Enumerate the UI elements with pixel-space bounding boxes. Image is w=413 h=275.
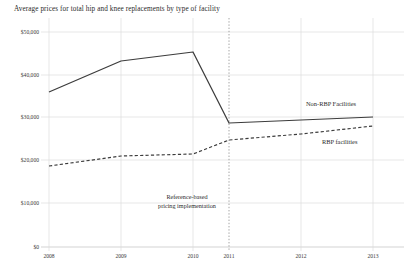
y-axis-tick-50000: $50,000: [5, 29, 39, 35]
y-axis-tick-0: $0: [5, 244, 39, 250]
series-label-rbp-facilities: RBP facilities: [322, 138, 357, 145]
x-axis-tick-2008: 2008: [29, 253, 69, 259]
x-axis-tick-2009: 2009: [101, 253, 141, 259]
x-axis-tick-2010: 2010: [173, 253, 213, 259]
series-line-non-rbp-facilities: [49, 52, 373, 123]
annotation-line-1: Reference-based: [146, 192, 228, 201]
series-label-non-rbp-facilities: Non-RBP Facilities: [306, 100, 356, 107]
y-axis-tick-20000: $20,000: [5, 157, 39, 163]
y-axis-tick-10000: $10,000: [5, 200, 39, 206]
chart-page: Average prices for total hip and knee re…: [0, 0, 413, 275]
annotation-line-2: pricing implementation: [146, 201, 228, 210]
y-axis-tick-40000: $40,000: [5, 72, 39, 78]
reference-line-annotation: Reference-based pricing implementation: [146, 192, 228, 210]
x-axis-tick-2011: 2011: [209, 253, 249, 259]
y-axis-tick-30000: $30,000: [5, 114, 39, 120]
x-axis-tick-2012: 2012: [281, 253, 321, 259]
x-axis-tick-2013: 2013: [353, 253, 393, 259]
vertical-gridlines: [49, 18, 373, 251]
